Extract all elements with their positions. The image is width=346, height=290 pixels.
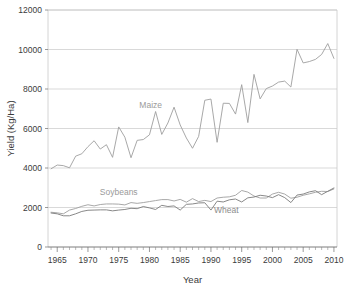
y-axis-tick-labels: 020004000600080001000012000	[18, 5, 42, 252]
y-tick-label-8000: 8000	[23, 84, 42, 94]
x-tick-label-1975: 1975	[109, 255, 128, 265]
y-tick-label-2000: 2000	[23, 203, 42, 213]
x-tick-label-1990: 1990	[201, 255, 220, 265]
series-line-maize	[51, 44, 334, 169]
x-axis-ticks	[51, 247, 334, 252]
y-tick-label-12000: 12000	[18, 5, 42, 15]
series-label-wheat: Wheat	[214, 205, 239, 215]
y-tick-label-10000: 10000	[18, 45, 42, 55]
y-axis-title: Yield (Kg/Ha)	[5, 100, 16, 156]
series-line-wheat	[51, 188, 334, 216]
x-tick-label-1980: 1980	[140, 255, 159, 265]
y-tick-label-6000: 6000	[23, 124, 42, 134]
x-tick-label-1965: 1965	[48, 255, 67, 265]
yield-line-chart: 020004000600080001000012000 196519701975…	[0, 0, 346, 290]
x-tick-label-1995: 1995	[232, 255, 251, 265]
gridlines-group	[48, 10, 337, 208]
x-axis-tick-labels: 1965197019751980198519901995200020052010	[48, 255, 344, 265]
x-tick-label-2000: 2000	[263, 255, 282, 265]
data-series-group	[51, 44, 334, 216]
x-axis-title: Year	[183, 274, 202, 285]
chart-canvas: 020004000600080001000012000 196519701975…	[0, 0, 346, 290]
y-axis-ticks	[45, 10, 48, 247]
y-tick-label-4000: 4000	[23, 163, 42, 173]
series-label-maize: Maize	[139, 100, 162, 110]
x-tick-label-1970: 1970	[79, 255, 98, 265]
x-tick-label-2010: 2010	[324, 255, 343, 265]
series-label-soybeans: Soybeans	[100, 187, 138, 197]
y-tick-label-0: 0	[37, 242, 42, 252]
x-tick-label-1985: 1985	[171, 255, 190, 265]
x-tick-label-2005: 2005	[294, 255, 313, 265]
